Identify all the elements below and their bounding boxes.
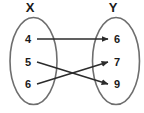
- domain-set-label: X: [20, 1, 40, 15]
- codomain-element-3: 9: [110, 78, 124, 90]
- mapping-diagram: X Y 4 5 6 6 7 9: [0, 0, 144, 113]
- domain-element-3: 6: [21, 78, 35, 90]
- domain-element-1: 4: [21, 33, 35, 45]
- codomain-element-2: 7: [110, 56, 124, 68]
- codomain-set-label: Y: [103, 1, 123, 15]
- codomain-element-1: 6: [110, 33, 124, 45]
- domain-element-2: 5: [21, 56, 35, 68]
